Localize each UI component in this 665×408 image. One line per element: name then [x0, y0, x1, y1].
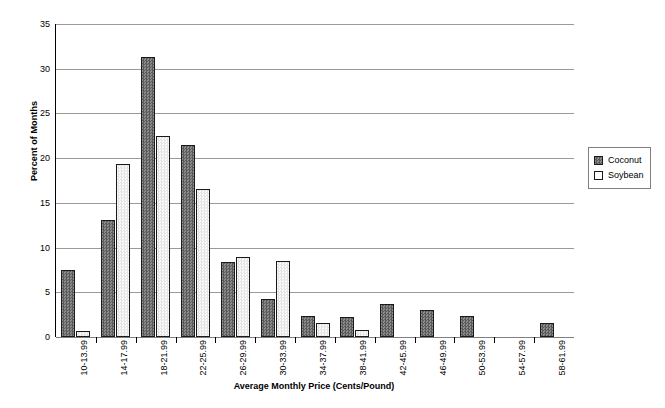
x-tick-label: 50-53.99 [477, 340, 487, 400]
y-tick-label: 20 [22, 154, 50, 163]
bar-soybean-10-13.99 [76, 331, 90, 337]
bar-coconut-58-61.99 [540, 323, 554, 337]
x-axis-title: Average Monthly Price (Cents/Pound) [55, 381, 573, 391]
bar-coconut-46-49.99 [420, 310, 434, 337]
bar-coconut-30-33.99 [261, 299, 275, 337]
y-tick-label: 25 [22, 109, 50, 118]
bar-coconut-26-29.99 [221, 262, 235, 337]
x-tick-label: 14-17.99 [119, 340, 129, 400]
y-tick-label: 10 [22, 243, 50, 252]
legend-swatch-soybean-icon [594, 171, 603, 180]
x-tick-label: 18-21.99 [159, 340, 169, 400]
x-tick-label: 10-13.99 [79, 340, 89, 400]
bar-coconut-34-37.99 [301, 316, 315, 337]
legend-swatch-coconut-icon [594, 156, 603, 165]
bar-soybean-34-37.99 [316, 323, 330, 337]
x-tick-label: 26-29.99 [238, 340, 248, 400]
bar-soybean-38-41.99 [355, 330, 369, 337]
x-tick-label: 30-33.99 [278, 340, 288, 400]
x-tick-label: 42-45.99 [398, 340, 408, 400]
bar-soybean-18-21.99 [156, 136, 170, 337]
x-tick-label: 54-57.99 [517, 340, 527, 400]
x-tick-label: 58-61.99 [557, 340, 567, 400]
legend-item-coconut: Coconut [594, 153, 644, 168]
x-tick-label: 34-37.99 [318, 340, 328, 400]
legend-label-coconut: Coconut [608, 156, 642, 165]
bar-coconut-22-25.99 [181, 145, 195, 337]
x-axis-tick-labels: 10-13.9914-17.9918-21.9922-25.9926-29.99… [55, 340, 573, 380]
bar-chart-figure: Percent of Months 05101520253035 10-13.9… [0, 0, 665, 408]
bar-coconut-42-45.99 [380, 304, 394, 337]
bar-soybean-22-25.99 [196, 189, 210, 337]
y-axis-tick-labels: 05101520253035 [22, 24, 50, 337]
bar-coconut-10-13.99 [61, 270, 75, 337]
legend-label-soybean: Soybean [608, 171, 644, 180]
y-tick-label: 0 [22, 333, 50, 342]
y-tick-label: 15 [22, 198, 50, 207]
x-tick-label: 38-41.99 [358, 340, 368, 400]
bar-soybean-14-17.99 [116, 164, 130, 337]
y-tick-label: 35 [22, 20, 50, 29]
bar-soybean-26-29.99 [236, 257, 250, 337]
bar-soybean-30-33.99 [276, 261, 290, 337]
x-tick-label: 22-25.99 [198, 340, 208, 400]
x-axis-line [56, 337, 574, 338]
bar-coconut-50-53.99 [460, 316, 474, 337]
bar-coconut-18-21.99 [141, 57, 155, 337]
legend-item-soybean: Soybean [594, 168, 644, 183]
legend: Coconut Soybean [588, 147, 651, 189]
y-tick-label: 5 [22, 288, 50, 297]
x-tick-label: 46-49.99 [438, 340, 448, 400]
bars-layer [56, 24, 574, 337]
bar-coconut-38-41.99 [340, 317, 354, 337]
plot-area [55, 24, 574, 337]
y-tick-label: 30 [22, 64, 50, 73]
bar-coconut-14-17.99 [101, 220, 115, 337]
